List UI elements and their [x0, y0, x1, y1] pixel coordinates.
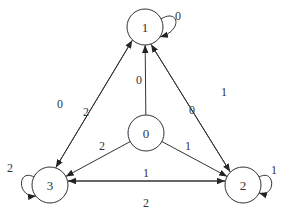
edge-label: 1 — [185, 139, 191, 153]
state-node-3: 3 — [32, 167, 68, 203]
edge-label: 0 — [175, 9, 181, 23]
edge-label: 0 — [136, 73, 142, 87]
edge-0-to-1 — [145, 45, 146, 115]
state-node-0: 0 — [128, 115, 164, 151]
edge-label: 0 — [57, 97, 63, 111]
edge-0-to-3 — [66, 142, 130, 177]
edge-label: 2 — [7, 161, 13, 175]
state-node-1: 1 — [127, 9, 163, 45]
node-label: 0 — [143, 126, 150, 141]
edge-label: 2 — [99, 139, 105, 153]
edge-label: 2 — [143, 196, 149, 210]
state-diagram: 0123 012012021012 — [0, 0, 290, 217]
edge-label: 0 — [189, 103, 195, 117]
node-label: 2 — [240, 178, 247, 193]
edge-label: 1 — [221, 85, 227, 99]
node-label: 3 — [47, 178, 54, 193]
edge-label: 1 — [143, 166, 149, 180]
edge-0-to-2 — [162, 142, 227, 177]
edge-label: 2 — [83, 105, 89, 119]
node-label: 1 — [142, 20, 149, 35]
edge-label: 1 — [271, 163, 277, 177]
state-node-2: 2 — [225, 167, 261, 203]
edge-1-to-3 — [56, 40, 132, 167]
